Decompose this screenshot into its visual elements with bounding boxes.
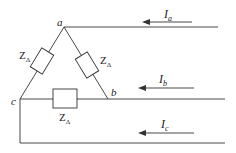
arrowhead-b-icon [138, 85, 146, 91]
current-label-c: Ic [161, 118, 169, 133]
arrowhead-c-icon [138, 130, 146, 136]
current-label-b: Ib [159, 73, 167, 88]
current-label-sub: c [165, 124, 169, 133]
impedance-label-ac: ZΔ [19, 50, 30, 64]
impedance-label-sub: Δ [107, 61, 112, 69]
impedance-label-main: Z [100, 54, 107, 66]
impedance-ac-box [30, 48, 53, 74]
impedance-label-ab: ZΔ [100, 55, 111, 69]
impedance-label-sub: Δ [66, 118, 71, 126]
circuit-diagram [0, 0, 236, 153]
impedance-label-sub: Δ [26, 56, 31, 64]
impedance-ab-box [75, 52, 98, 78]
node-label-c: c [11, 96, 16, 107]
impedance-cb-box [53, 89, 77, 108]
current-label-a: Ia [164, 8, 172, 23]
impedance-label-cb: ZΔ [59, 112, 70, 126]
impedance-label-main: Z [59, 111, 66, 123]
arrowhead-a-icon [142, 19, 150, 25]
current-label-sub: b [163, 79, 167, 88]
node-label-b: b [111, 87, 117, 98]
node-label-a: a [57, 17, 63, 28]
current-label-sub: a [168, 14, 172, 23]
impedance-label-main: Z [19, 49, 26, 61]
